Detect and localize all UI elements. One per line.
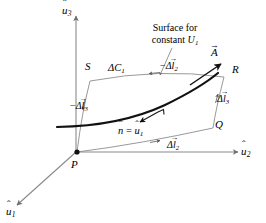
label-delta-c1-base: ΔC	[108, 62, 121, 73]
label-delta-l2-subscript: 2	[176, 144, 180, 151]
axis-label-u2: ̂u2	[241, 146, 250, 159]
edge-S-P	[77, 81, 90, 152]
surface-note-symbol: U	[188, 34, 195, 45]
surface-note-prefix: constant	[152, 34, 188, 45]
axis-label-u3-base: u	[62, 5, 68, 16]
label-delta-l3-subscript: 3	[226, 98, 230, 105]
label-vector-A: →A	[211, 47, 218, 58]
label-minus-delta-l3: −Δ→l3	[70, 101, 88, 113]
point-label-R: R	[232, 64, 239, 75]
edge-P-Q	[77, 128, 213, 152]
label-normal-rhs: u	[134, 126, 139, 137]
axis-label-u1-subscript: 1	[12, 210, 16, 219]
axis-label-u3-subscript: 3	[68, 9, 72, 18]
label-normal-rhs-subscript: 1	[140, 130, 144, 138]
label-normal-equation: ̂n = ̂u1	[118, 126, 143, 138]
vector-surface-diagram: ̂u3 ̂u2 ̂u1 Surface for constant U1 S R …	[0, 0, 266, 223]
point-P-marker	[74, 149, 79, 154]
label-delta-c1: ΔC1	[108, 63, 125, 75]
axis-label-u2-base: u	[241, 146, 247, 157]
label-minus-delta-l3-subscript: 3	[84, 105, 88, 112]
axis-label-u2-subscript: 2	[247, 150, 251, 159]
label-delta-c1-subscript: 1	[121, 67, 125, 75]
label-delta-l2: Δ→l2	[167, 140, 179, 152]
surface-note-line2: constant U1	[133, 34, 217, 47]
surface-note-subscript: 1	[195, 39, 199, 46]
surface-note-line1: Surface for	[133, 22, 217, 34]
axis-label-u1-base: u	[6, 206, 12, 217]
point-label-S: S	[85, 61, 91, 72]
axis-u1	[17, 152, 76, 205]
point-label-Q: Q	[215, 119, 223, 130]
label-delta-l3: Δ→l3	[217, 94, 229, 106]
surface-note: Surface for constant U1	[133, 22, 217, 48]
label-minus-delta-l2-subscript: 2	[174, 65, 178, 72]
axis-label-u3: ̂u3	[62, 5, 71, 18]
point-label-P: P	[71, 159, 78, 170]
label-normal-lhs: n	[118, 126, 123, 137]
axis-label-u1: ̂u1	[6, 206, 15, 219]
label-minus-delta-l2: −Δ→l2	[160, 61, 178, 73]
